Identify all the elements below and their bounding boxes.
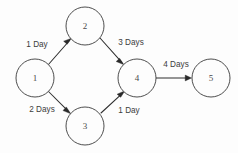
edge-3-to-4-label: 1 Day — [118, 106, 140, 115]
edge-1-to-2-label: 1 Day — [26, 40, 48, 49]
node-2[interactable]: 2 — [66, 7, 104, 45]
edge-1-to-2-line — [48, 41, 70, 66]
node-5-label: 5 — [209, 73, 214, 83]
network-diagram: 1 2 3 4 5 1 Day 3 Days 2 Days — [0, 0, 238, 153]
node-5[interactable]: 5 — [192, 59, 230, 97]
edge-4-to-5 — [156, 75, 192, 81]
node-1-label: 1 — [33, 73, 38, 83]
node-3-label: 3 — [83, 121, 88, 131]
node-group: 1 2 3 4 5 — [16, 7, 230, 145]
edge-2-to-4-arrowhead — [116, 58, 124, 65]
node-4[interactable]: 4 — [118, 59, 156, 97]
edge-4-to-5-label: 4 Days — [163, 60, 188, 69]
edge-2-to-4-label: 3 Days — [118, 38, 143, 47]
node-4-label: 4 — [135, 73, 140, 83]
node-3[interactable]: 3 — [66, 107, 104, 145]
edge-1-to-3-label: 2 Days — [29, 105, 54, 114]
edge-4-to-5-arrowhead — [185, 75, 191, 81]
edge-1-to-3-arrowhead — [63, 107, 71, 114]
network-diagram-canvas: 1 2 3 4 5 1 Day 3 Days 2 Days — [0, 0, 238, 153]
node-1[interactable]: 1 — [16, 59, 54, 97]
node-2-label: 2 — [83, 21, 88, 31]
edge-1-to-2 — [48, 38, 72, 65]
edge-1-to-2-arrowhead — [64, 38, 72, 44]
